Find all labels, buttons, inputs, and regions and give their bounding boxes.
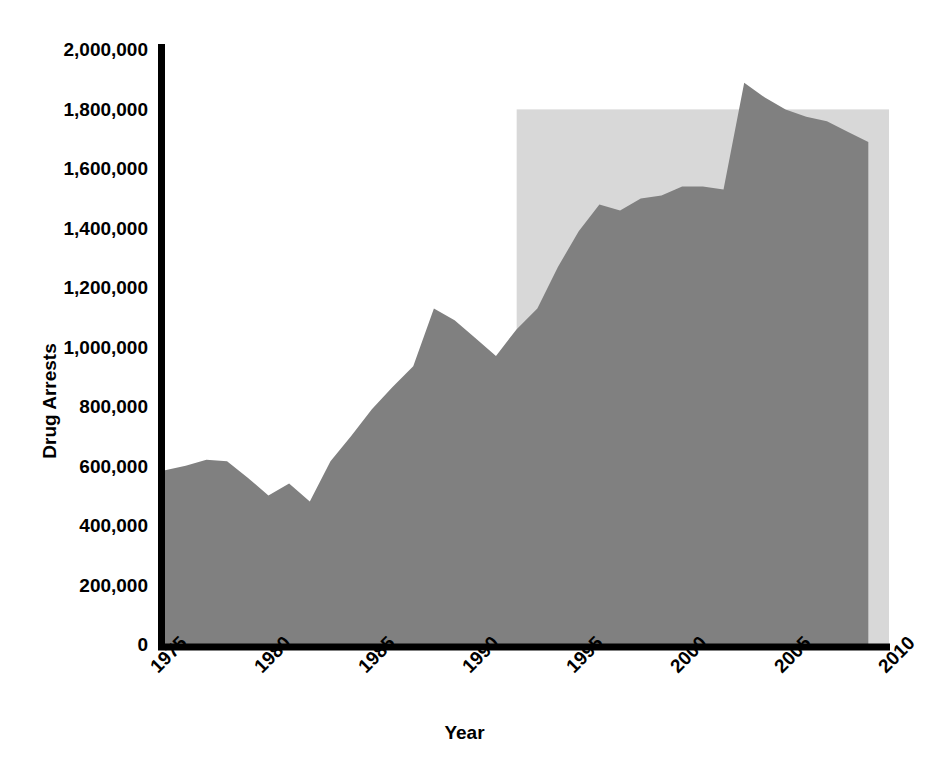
chart-figure: 0 200,000 400,000 600,000 800,000 1,000,… bbox=[0, 0, 929, 766]
x-axis-label: Year bbox=[0, 722, 929, 744]
drug-arrests-area bbox=[165, 83, 868, 644]
